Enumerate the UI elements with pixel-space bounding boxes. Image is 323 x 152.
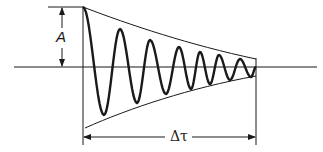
upper-envelope [83,7,256,59]
damped-wave [83,7,256,115]
damped-oscillation-diagram [0,0,323,152]
duration-label: Δτ [167,128,191,144]
amplitude-label: A [56,28,66,46]
